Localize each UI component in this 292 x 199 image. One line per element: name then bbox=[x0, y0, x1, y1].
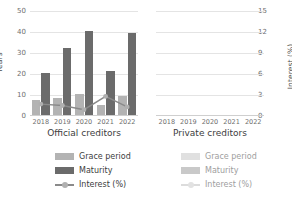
legend-label-maturity: Maturity bbox=[205, 166, 238, 175]
panel-title-official-creditors: Official creditors bbox=[30, 128, 138, 138]
interest-line-marker-icon bbox=[181, 181, 200, 188]
interest-data-point bbox=[38, 102, 43, 107]
legend-official-creditors: Grace period Maturity Interest (%) bbox=[55, 151, 131, 190]
legend-label-interest: Interest (%) bbox=[205, 180, 252, 189]
legend-item-maturity[interactable]: Maturity bbox=[181, 165, 257, 176]
y-tick-label: 10 bbox=[6, 92, 26, 99]
legend-label-grace-period: Grace period bbox=[205, 152, 257, 161]
legend-item-maturity[interactable]: Maturity bbox=[55, 165, 131, 176]
x-tick-label: 2022 bbox=[116, 118, 138, 128]
interest-line-marker-icon bbox=[55, 181, 74, 188]
legend-item-interest[interactable]: Interest (%) bbox=[55, 179, 131, 190]
plot-area-official-creditors bbox=[30, 11, 138, 116]
x-axis-ticks-official: 20182019202020212022 bbox=[30, 118, 138, 128]
panel-title-private-creditors: Private creditors bbox=[156, 128, 264, 138]
y-axis-left-title: Years bbox=[0, 52, 4, 72]
y-tick-label: 30 bbox=[6, 50, 26, 57]
legend-label-grace-period: Grace period bbox=[79, 152, 131, 161]
interest-data-point bbox=[125, 105, 130, 110]
y-tick-label: 50 bbox=[6, 8, 26, 15]
interest-line-private bbox=[156, 11, 264, 116]
x-tick-label: 2019 bbox=[52, 118, 74, 128]
grace-period-swatch-icon bbox=[181, 153, 200, 160]
x-tick-label: 2020 bbox=[199, 118, 221, 128]
legend-item-grace-period[interactable]: Grace period bbox=[55, 151, 131, 162]
legend-item-grace-period[interactable]: Grace period bbox=[181, 151, 257, 162]
maturity-swatch-icon bbox=[55, 167, 74, 174]
legend-label-interest: Interest (%) bbox=[79, 180, 126, 189]
x-tick-label: 2018 bbox=[156, 118, 178, 128]
y-axis-right-title: Interest (%) bbox=[286, 44, 292, 89]
y-tick-label: 20 bbox=[6, 71, 26, 78]
x-tick-label: 2022 bbox=[242, 118, 264, 128]
x-tick-label: 2019 bbox=[178, 118, 200, 128]
maturity-swatch-icon bbox=[181, 167, 200, 174]
x-tick-label: 2021 bbox=[95, 118, 117, 128]
y-tick-label: 40 bbox=[6, 29, 26, 36]
x-tick-label: 2018 bbox=[30, 118, 52, 128]
plot-frame-official bbox=[30, 11, 138, 116]
legend-label-maturity: Maturity bbox=[79, 166, 112, 175]
x-tick-label: 2020 bbox=[73, 118, 95, 128]
legend-private-creditors: Grace period Maturity Interest (%) bbox=[181, 151, 257, 190]
y-axis-left-ticks: 01020304050 bbox=[6, 0, 26, 130]
interest-line-official bbox=[30, 11, 138, 116]
grace-period-swatch-icon bbox=[55, 153, 74, 160]
x-tick-label: 2021 bbox=[221, 118, 243, 128]
interest-data-point bbox=[103, 94, 108, 99]
x-axis-ticks-private: 20182019202020212022 bbox=[156, 118, 264, 128]
interest-data-point bbox=[82, 107, 87, 112]
y-tick-label: 0 bbox=[6, 113, 26, 120]
legend-item-interest[interactable]: Interest (%) bbox=[181, 179, 257, 190]
plot-area-private-creditors bbox=[156, 11, 264, 116]
chart-figure: Years Interest (%) 01020304050 03691215 … bbox=[0, 0, 292, 199]
plot-frame-private bbox=[156, 11, 264, 116]
interest-data-point bbox=[60, 103, 65, 108]
